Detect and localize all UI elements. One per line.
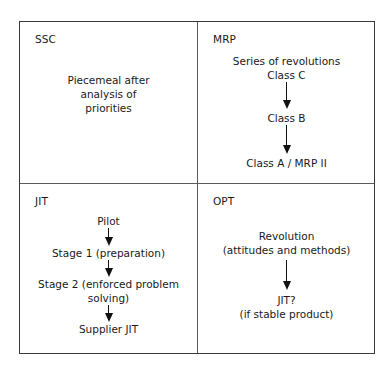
step-text: solving) [88, 291, 129, 305]
step-text: Stage 1 (preparation) [52, 246, 165, 260]
quadrant-ssc: SSC Piecemeal after analysis of prioriti… [20, 22, 197, 183]
step-text: Revolution [259, 229, 315, 243]
down-arrow-icon [105, 305, 113, 322]
down-arrow-icon [105, 260, 113, 277]
quadrant-title: JIT [35, 195, 48, 207]
down-arrow-icon [283, 82, 291, 109]
step-text: Pilot [97, 214, 119, 228]
step-text: (attitudes and methods) [223, 243, 351, 257]
quadrant-title: OPT [213, 195, 234, 207]
down-arrow-icon [283, 125, 291, 154]
step-text: priorities [85, 101, 132, 115]
step-text: JIT? [277, 293, 295, 307]
down-arrow-icon [283, 260, 291, 290]
step-text: (if stable product) [240, 307, 334, 321]
quadrant-title: MRP [213, 33, 236, 45]
step-text: Series of revolutions [233, 54, 340, 68]
step-text: Class C [267, 68, 305, 82]
jit-flow: Pilot Stage 1 (preparation) Stage 2 (enf… [20, 214, 197, 336]
ssc-flow: Piecemeal after analysis of priorities [20, 73, 197, 115]
quadrant-mrp: MRP Series of revolutions Class C Class … [198, 22, 375, 183]
down-arrow-icon [105, 228, 113, 246]
mrp-flow: Series of revolutions Class C Class B Cl… [198, 54, 375, 170]
step-text: Supplier JIT [79, 322, 138, 336]
step-text: Stage 2 (enforced problem [38, 277, 179, 291]
step-text: Class B [267, 111, 305, 125]
quadrant-title: SSC [35, 33, 56, 45]
step-text: Piecemeal after [68, 73, 150, 87]
step-text: Class A / MRP II [246, 156, 327, 170]
quadrant-jit: JIT Pilot Stage 1 (preparation) Stage 2 … [20, 184, 197, 354]
implementation-approach-grid: SSC Piecemeal after analysis of prioriti… [19, 21, 375, 354]
step-text: analysis of [81, 87, 137, 101]
quadrant-opt: OPT Revolution (attitudes and methods) J… [198, 184, 375, 354]
opt-flow: Revolution (attitudes and methods) JIT? … [198, 229, 375, 321]
